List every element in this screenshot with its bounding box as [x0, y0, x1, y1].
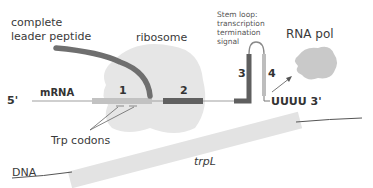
region-2-band [163, 98, 203, 104]
dna-line-right [296, 118, 362, 122]
region-1-band [92, 98, 152, 104]
stem-loop-label-1: Stem loop: [217, 11, 258, 19]
trp-codons-label: Trp codons [51, 135, 110, 147]
region-1-label: 1 [119, 85, 127, 97]
stem-loop-label-3: termination [217, 29, 261, 37]
leader-peptide-label-2: leader peptide [11, 31, 91, 43]
leader-peptide-label-1: complete [11, 17, 62, 29]
rna-pol-arrowhead [286, 76, 292, 82]
rna-pol-shape [295, 47, 337, 80]
region-3-label: 3 [238, 68, 246, 80]
three-prime-end-label: UUUU 3' [271, 96, 322, 108]
trp-attenuation-diagram: complete leader peptide ribosome Stem lo… [0, 0, 373, 188]
rna-pol-arrow-line [272, 78, 290, 92]
stem-loop-label-2: transcription [217, 20, 265, 28]
dna-label: DNA [12, 167, 36, 179]
stem-loop-label-4: signal [217, 38, 239, 46]
mrna-label: mRNA [40, 88, 74, 99]
rna-pol-label: RNA pol [286, 28, 334, 41]
ribosome-label: ribosome [136, 32, 187, 44]
region-4-tail [264, 96, 270, 101]
five-prime-label: 5' [7, 95, 18, 107]
trpL-label: trpL [194, 156, 216, 168]
region-4-label: 4 [268, 68, 276, 80]
stem-loop [249, 42, 264, 54]
region-2-label: 2 [180, 85, 188, 97]
